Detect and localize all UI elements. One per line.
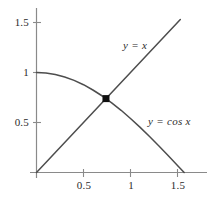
x-tick-label-0_5: 0.5 — [64, 179, 104, 191]
series-label-y-equals-cos-x: y = cos x — [148, 115, 191, 127]
cosine-intersection-chart: 1.5 1 0.5 0.5 1 1.5 y = x y = cos x — [0, 0, 217, 198]
x-tick-label-1_5: 1.5 — [158, 179, 198, 191]
intersection-point-marker — [102, 95, 109, 102]
y-tick-label-0_5: 0.5 — [2, 116, 29, 128]
y-tick-label-1: 1 — [2, 66, 29, 78]
x-tick-label-1: 1 — [111, 179, 151, 191]
series-label-y-equals-x: y = x — [123, 39, 147, 51]
plot-canvas — [0, 0, 217, 198]
y-tick-label-1_5: 1.5 — [2, 16, 29, 28]
